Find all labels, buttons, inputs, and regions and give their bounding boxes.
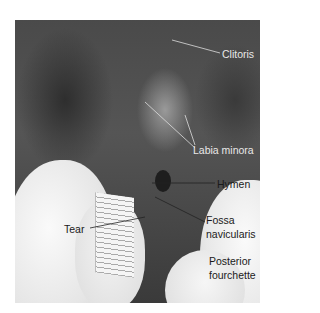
label-labia-minora: Labia minora <box>193 144 254 156</box>
label-fossa-line1: Fossa <box>206 214 235 226</box>
label-tear: Tear <box>64 223 84 235</box>
label-posterior-line2: fourchette <box>209 269 256 281</box>
label-posterior-line1: Posterior <box>209 255 251 267</box>
label-clitoris: Clitoris <box>222 48 254 60</box>
label-hymen: Hymen <box>217 178 250 190</box>
label-fossa-line2: navicularis <box>206 228 256 240</box>
